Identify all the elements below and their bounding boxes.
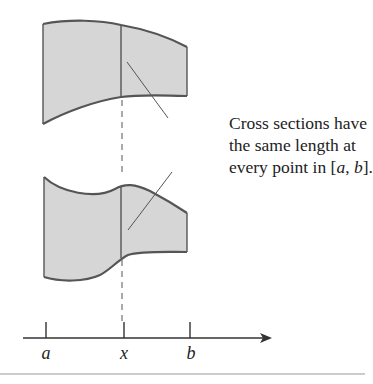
caption: Cross sections have the same length at e… — [229, 112, 373, 178]
caption-line-2: the same length at — [229, 134, 373, 156]
axis-label-a: a — [42, 343, 51, 364]
axis-label-x: x — [120, 343, 128, 364]
caption-line-3: every point in [a, b]. — [229, 156, 373, 178]
caption-line-1: Cross sections have — [229, 112, 373, 134]
axis-label-b: b — [187, 343, 196, 364]
